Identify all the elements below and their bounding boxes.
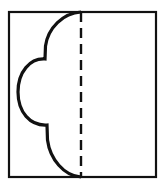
folded-paper-diagram: Folded paper cut-out diagram A square ou… bbox=[0, 0, 166, 186]
outer-square-outline bbox=[9, 12, 156, 177]
figure-container: Folded paper cut-out diagram A square ou… bbox=[0, 0, 166, 186]
